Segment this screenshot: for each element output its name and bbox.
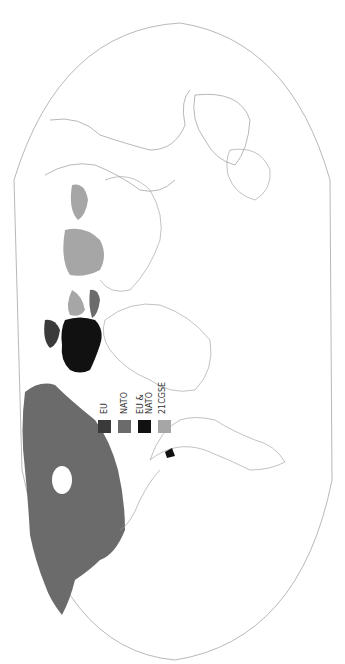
hudson-bay [52, 466, 72, 494]
map-legend: EU NATO EU & NATO 21CGSE [70, 376, 170, 446]
legend-label-eu-nato: EU & NATO [136, 392, 154, 414]
legend-swatch-eu-nato [138, 420, 151, 433]
legend-label-21cgse: 21CGSE [158, 382, 167, 414]
legend-label-eu: EU [100, 403, 109, 414]
legend-swatch-nato [118, 420, 131, 433]
legend-swatch-21cgse [158, 420, 171, 433]
legend-label-nato: NATO [120, 392, 129, 414]
world-map [0, 0, 345, 664]
legend-swatch-eu [98, 420, 111, 433]
